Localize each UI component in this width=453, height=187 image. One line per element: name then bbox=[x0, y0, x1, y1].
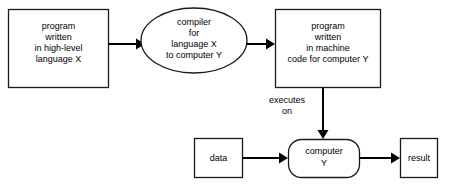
edge-compiler-to-machine-arrowhead bbox=[266, 39, 275, 50]
edge-computer-to-result bbox=[360, 153, 401, 164]
compiler-line-2: for bbox=[189, 28, 200, 38]
node-result[interactable]: result bbox=[401, 139, 438, 178]
edge-source-to-compiler bbox=[109, 39, 146, 50]
data-label: data bbox=[210, 153, 228, 163]
computer-line-2: Y bbox=[321, 158, 327, 168]
node-source-program[interactable]: program written in high-level language X bbox=[9, 10, 109, 88]
node-data[interactable]: data bbox=[195, 139, 243, 178]
edge-machine-to-computer: executes on bbox=[269, 88, 329, 140]
node-machine-program[interactable]: program written in machine code for comp… bbox=[276, 10, 381, 88]
edge-compiler-to-machine bbox=[246, 39, 275, 50]
edge-machine-to-computer-arrowhead bbox=[318, 130, 329, 139]
source-program-line-4: language X bbox=[36, 54, 82, 64]
machine-program-line-3: in machine bbox=[306, 43, 350, 53]
machine-program-line-2: written bbox=[314, 32, 342, 42]
compilation-process-flowchart: program written in high-level language X… bbox=[0, 0, 453, 187]
machine-program-line-4: code for computer Y bbox=[288, 54, 369, 64]
compiler-line-3: language X bbox=[171, 39, 217, 49]
computer-line-1: computer bbox=[305, 146, 343, 156]
machine-program-line-1: program bbox=[311, 21, 345, 31]
edge-data-to-computer bbox=[243, 153, 289, 164]
diagram-canvas: program written in high-level language X… bbox=[0, 0, 453, 187]
node-computer[interactable]: computer Y bbox=[289, 140, 360, 178]
edge-machine-to-computer-label-line-1: executes bbox=[269, 95, 306, 105]
source-program-line-1: program bbox=[42, 21, 76, 31]
source-program-line-3: in high-level bbox=[34, 43, 82, 53]
result-label: result bbox=[408, 153, 431, 163]
compiler-line-1: compiler bbox=[177, 17, 211, 27]
source-program-line-2: written bbox=[44, 32, 72, 42]
edge-data-to-computer-arrowhead bbox=[279, 153, 288, 164]
compiler-line-4: to computer Y bbox=[166, 50, 222, 60]
edge-computer-to-result-arrowhead bbox=[391, 153, 400, 164]
edge-machine-to-computer-label-line-2: on bbox=[282, 106, 292, 116]
node-compiler[interactable]: compiler for language X to computer Y bbox=[141, 8, 247, 73]
